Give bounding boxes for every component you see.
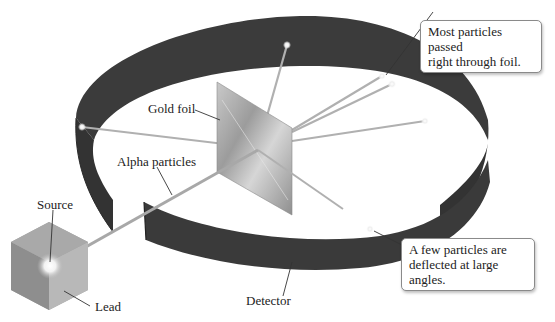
- callout-few-deflected-line1: A few particles are: [409, 242, 527, 257]
- callout-few-deflected-line2: deflected at large angles.: [409, 257, 527, 287]
- callout-most-passed-line1: Most particles passed: [428, 24, 534, 54]
- label-alpha-particles: Alpha particles: [117, 154, 196, 169]
- lead-box: [11, 222, 88, 310]
- gold-foil: [217, 82, 292, 215]
- label-lead: Lead: [95, 299, 121, 314]
- callout-few-deflected: A few particles are deflected at large a…: [401, 238, 535, 291]
- label-gold-foil: Gold foil: [148, 101, 195, 116]
- label-detector: Detector: [246, 293, 291, 308]
- callout-most-passed: Most particles passed right through foil…: [420, 20, 542, 73]
- callout-most-passed-line2: right through foil.: [428, 54, 534, 69]
- label-source: Source: [37, 197, 73, 212]
- scattering-diagram: Gold foil Alpha particles Source Lead De…: [0, 0, 555, 322]
